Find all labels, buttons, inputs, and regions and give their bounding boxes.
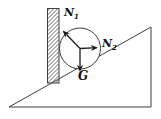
label-n2-symbol: N <box>102 37 112 50</box>
label-n1-symbol: N <box>64 6 74 19</box>
force-vector-n2 <box>80 48 93 49</box>
label-g: G <box>78 70 88 84</box>
label-n2-subscript: 2 <box>112 43 117 52</box>
diagram-canvas <box>0 0 161 119</box>
hatch-line <box>48 84 60 96</box>
label-g-symbol: G <box>78 69 88 83</box>
label-n2: N2 <box>102 38 117 51</box>
physics-diagram: N1 N2 G <box>0 0 161 119</box>
label-n1-subscript: 1 <box>74 12 79 21</box>
label-n1: N1 <box>64 7 79 20</box>
